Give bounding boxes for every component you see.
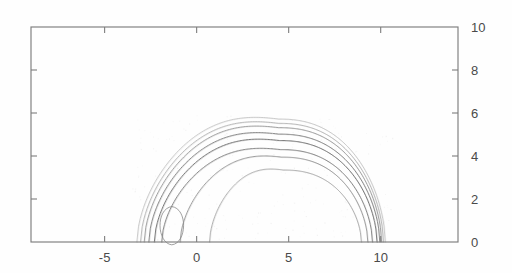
scan-speck <box>310 202 311 203</box>
scan-speck <box>329 160 330 161</box>
scan-speck <box>315 188 316 189</box>
scan-speck <box>149 237 150 238</box>
scan-speck <box>387 207 388 208</box>
scan-speck <box>140 143 141 144</box>
scan-speck <box>258 235 259 236</box>
scan-speck <box>223 215 224 216</box>
scan-speck <box>242 175 243 176</box>
scan-speck <box>222 170 223 171</box>
scan-speck <box>340 213 341 214</box>
scan-speck <box>292 147 293 148</box>
scan-speck <box>345 217 346 218</box>
scan-speck <box>258 212 259 213</box>
scan-speck <box>172 136 173 137</box>
scan-speck <box>238 150 239 151</box>
scan-speck <box>296 129 297 130</box>
scan-speck <box>173 140 174 141</box>
scan-speck <box>311 176 312 177</box>
scan-speck <box>349 168 350 169</box>
scan-speck <box>304 211 305 212</box>
scan-speck <box>366 184 367 185</box>
scan-speck <box>316 228 317 229</box>
scan-speck <box>169 139 170 140</box>
scan-speck <box>226 229 227 230</box>
scan-speck <box>210 175 211 176</box>
scan-speck <box>285 173 286 174</box>
scan-speck <box>153 148 154 149</box>
scan-speck <box>146 222 147 223</box>
scan-speck <box>337 187 338 188</box>
scan-speck <box>281 172 282 173</box>
scan-speck <box>304 233 305 234</box>
scan-speck <box>144 186 145 187</box>
scan-speck <box>374 221 375 222</box>
scan-speck <box>271 213 272 214</box>
scan-speck <box>227 170 228 171</box>
scan-speck <box>283 204 284 205</box>
scan-speck <box>341 136 342 137</box>
scan-speck <box>191 190 192 191</box>
scan-speck <box>308 184 309 185</box>
scan-speck <box>138 177 139 178</box>
scan-speck <box>240 191 241 192</box>
scan-speck <box>274 206 275 207</box>
scan-speck <box>366 188 367 189</box>
scan-speck <box>255 238 256 239</box>
scan-speck <box>230 116 231 117</box>
scan-speck <box>201 159 202 160</box>
scan-speck <box>273 143 274 144</box>
scan-speck <box>177 170 178 171</box>
scan-speck <box>206 226 207 227</box>
scan-speck <box>260 213 261 214</box>
scan-speck <box>259 173 260 174</box>
figure-background <box>0 0 512 273</box>
scan-speck <box>325 156 326 157</box>
scan-speck <box>294 203 295 204</box>
scan-speck <box>173 183 174 184</box>
y-tick-label: 10 <box>471 20 485 35</box>
scan-speck <box>216 204 217 205</box>
scan-speck <box>346 202 347 203</box>
scan-speck <box>335 128 336 129</box>
scan-speck <box>177 168 178 169</box>
scan-speck <box>248 132 249 133</box>
scan-speck <box>334 237 335 238</box>
scan-speck <box>137 120 138 121</box>
scan-speck <box>339 155 340 156</box>
scan-speck <box>271 223 272 224</box>
scan-speck <box>186 233 187 234</box>
scan-speck <box>343 216 344 217</box>
scan-speck <box>225 195 226 196</box>
scan-speck <box>303 226 304 227</box>
scan-speck <box>298 131 299 132</box>
scan-speck <box>142 166 143 167</box>
scan-speck <box>249 121 250 122</box>
scan-speck <box>313 132 314 133</box>
scan-speck <box>294 168 295 169</box>
scan-speck <box>229 156 230 157</box>
y-tick-label: 6 <box>471 106 478 121</box>
scan-speck <box>183 129 184 130</box>
scan-speck <box>312 173 313 174</box>
scan-speck <box>158 138 159 139</box>
scan-speck <box>333 230 334 231</box>
scan-speck <box>333 126 334 127</box>
scan-speck <box>324 223 325 224</box>
scan-speck <box>232 155 233 156</box>
scan-speck <box>307 138 308 139</box>
scan-speck <box>302 189 303 190</box>
scan-speck <box>191 148 192 149</box>
scan-speck <box>310 158 311 159</box>
scan-speck <box>390 209 391 210</box>
scan-speck <box>197 115 198 116</box>
scan-speck <box>160 228 161 229</box>
scan-speck <box>140 199 141 200</box>
y-tick-label: 0 <box>471 235 478 250</box>
x-tick-label: 0 <box>193 250 200 265</box>
scan-speck <box>321 139 322 140</box>
scan-speck <box>270 160 271 161</box>
scan-speck <box>137 167 138 168</box>
scan-speck <box>374 220 375 221</box>
scan-speck <box>258 155 259 156</box>
scan-speck <box>305 173 306 174</box>
